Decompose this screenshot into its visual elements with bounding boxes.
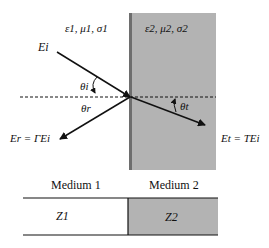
impedance-z1-label: Z1	[56, 209, 69, 224]
angle-reflection-label: θr	[81, 102, 91, 114]
reflected-wave-label: Er = ΓEi	[10, 132, 50, 144]
angle-incidence-label: θi	[80, 80, 88, 92]
medium1-label: Medium 1	[51, 178, 101, 193]
impedance-z2-label: Z2	[165, 210, 178, 225]
transmitted-wave-label: Et = TEi	[221, 132, 260, 144]
angle-transmission-label: θt	[180, 100, 188, 112]
medium2-region	[130, 13, 216, 170]
medium2-params: ε2, μ2, σ2	[145, 22, 188, 34]
incident-wave-label: Ei	[38, 40, 49, 55]
medium1-params: ε1, μ1, σ1	[65, 22, 108, 34]
angle-arc-incidence	[93, 77, 97, 93]
diagram-canvas	[0, 0, 269, 248]
reflected-ray	[60, 97, 130, 139]
medium2-label: Medium 2	[149, 178, 199, 193]
interface-line	[129, 13, 132, 170]
